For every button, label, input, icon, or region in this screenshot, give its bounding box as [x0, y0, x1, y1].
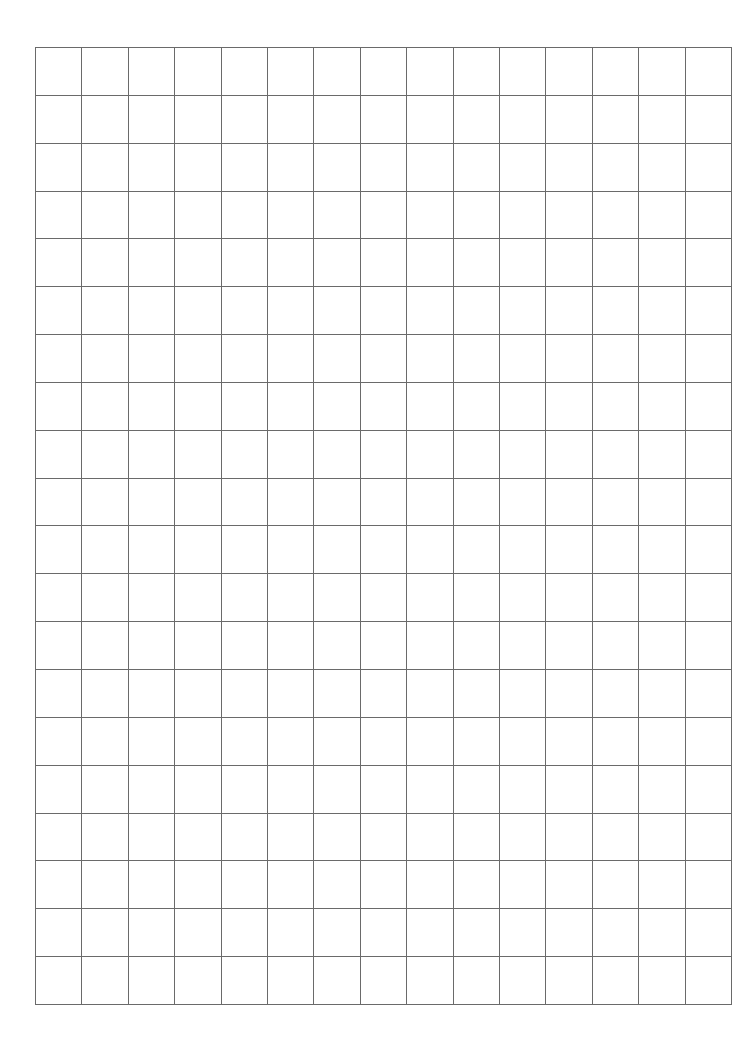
grid-cell: [36, 239, 82, 287]
grid-cell: [454, 144, 500, 192]
grid-cell: [500, 670, 546, 718]
grid-cell: [314, 909, 360, 957]
grid-cell: [222, 909, 268, 957]
grid-cell: [593, 144, 639, 192]
grid-cell: [268, 144, 314, 192]
grid-cell: [129, 192, 175, 240]
grid-cell: [222, 192, 268, 240]
grid-cell: [454, 861, 500, 909]
grid-cell: [500, 192, 546, 240]
grid-cell: [454, 670, 500, 718]
grid-cell: [175, 670, 221, 718]
grid-cell: [36, 670, 82, 718]
grid-cell: [361, 431, 407, 479]
grid-cell: [36, 718, 82, 766]
grid-cell: [639, 622, 685, 670]
grid-cell: [593, 574, 639, 622]
grid-cell: [454, 909, 500, 957]
grid-cell: [407, 957, 453, 1005]
grid-cell: [686, 48, 732, 96]
grid-cell: [268, 96, 314, 144]
grid-cell: [268, 814, 314, 862]
grid-cell: [639, 479, 685, 527]
grid-cell: [82, 335, 128, 383]
grid-cell: [407, 239, 453, 287]
grid-cell: [361, 192, 407, 240]
grid-cell: [454, 192, 500, 240]
grid-cell: [175, 431, 221, 479]
grid-cell: [129, 909, 175, 957]
grid-cell: [546, 526, 592, 574]
grid-cell: [222, 479, 268, 527]
grid-cell: [500, 239, 546, 287]
grid-cell: [268, 622, 314, 670]
grid-cell: [36, 957, 82, 1005]
grid-cell: [82, 670, 128, 718]
grid-cell: [268, 574, 314, 622]
grid-cell: [361, 574, 407, 622]
grid-cell: [36, 192, 82, 240]
grid-cell: [639, 670, 685, 718]
grid-cell: [407, 144, 453, 192]
grid-cell: [222, 144, 268, 192]
grid-cell: [686, 431, 732, 479]
grid-cell: [314, 574, 360, 622]
grid-cell: [686, 335, 732, 383]
grid-cell: [407, 287, 453, 335]
grid-cell: [268, 909, 314, 957]
grid-cell: [500, 48, 546, 96]
grid-cell: [314, 479, 360, 527]
grid-cell: [686, 144, 732, 192]
grid-cell: [222, 718, 268, 766]
grid-cell: [129, 766, 175, 814]
grid-cell: [82, 909, 128, 957]
grid-cell: [129, 718, 175, 766]
grid-cell: [407, 335, 453, 383]
grid-cell: [361, 287, 407, 335]
grid-cell: [36, 909, 82, 957]
grid-cell: [593, 239, 639, 287]
grid-cell: [454, 766, 500, 814]
grid-cell: [314, 383, 360, 431]
grid-cell: [314, 287, 360, 335]
grid-cell: [175, 287, 221, 335]
grid-cell: [314, 718, 360, 766]
grid-cell: [314, 766, 360, 814]
grid-cell: [268, 526, 314, 574]
grid-cell: [639, 192, 685, 240]
grid-cell: [546, 431, 592, 479]
grid-paper: [35, 47, 732, 1005]
grid-cell: [593, 335, 639, 383]
grid-cell: [686, 861, 732, 909]
grid-cell: [454, 718, 500, 766]
grid-cell: [639, 335, 685, 383]
grid-cell: [175, 814, 221, 862]
grid-cell: [593, 48, 639, 96]
grid-cell: [268, 383, 314, 431]
grid-cell: [82, 96, 128, 144]
grid-cell: [361, 957, 407, 1005]
grid-cell: [82, 622, 128, 670]
grid-cell: [36, 383, 82, 431]
grid-cell: [639, 861, 685, 909]
grid-cell: [546, 670, 592, 718]
grid-cell: [36, 48, 82, 96]
grid-cell: [593, 861, 639, 909]
grid-cell: [82, 479, 128, 527]
grid-cell: [129, 526, 175, 574]
grid-cell: [407, 718, 453, 766]
grid-cell: [407, 383, 453, 431]
grid-cell: [222, 861, 268, 909]
grid-cell: [686, 192, 732, 240]
grid-cell: [129, 861, 175, 909]
grid-cell: [82, 383, 128, 431]
grid-cell: [546, 192, 592, 240]
grid-cell: [36, 431, 82, 479]
grid-cell: [639, 287, 685, 335]
grid-cell: [129, 479, 175, 527]
grid-cell: [639, 909, 685, 957]
grid-cell: [500, 287, 546, 335]
grid-cell: [268, 239, 314, 287]
grid-cell: [129, 335, 175, 383]
grid-cell: [546, 909, 592, 957]
